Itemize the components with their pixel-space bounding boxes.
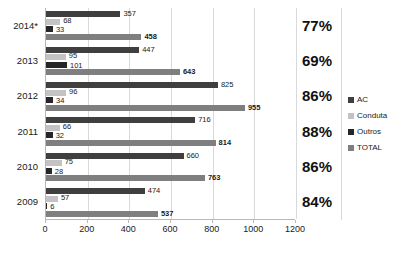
bar-row: 447 bbox=[46, 47, 295, 53]
bar-outros-2011 bbox=[46, 132, 53, 138]
horizontal-bar-chart: 2014*20132012201120102009 35768334584479… bbox=[0, 0, 402, 254]
legend-label: AC bbox=[357, 96, 368, 104]
bar-ac-2014-est bbox=[46, 11, 120, 17]
y-axis-label-2010: 2010 bbox=[0, 162, 38, 172]
bar-value-label: 34 bbox=[56, 97, 64, 105]
bar-value-label: 75 bbox=[65, 158, 73, 166]
x-tick-label-1000: 1000 bbox=[243, 225, 263, 234]
bar-outros-2014-est bbox=[46, 26, 53, 32]
bar-value-label: 825 bbox=[221, 81, 234, 89]
x-tick-600 bbox=[170, 220, 171, 223]
percentage-value-2011: 88% bbox=[296, 124, 338, 139]
bar-value-label: 763 bbox=[208, 174, 221, 182]
bar-value-label: 458 bbox=[144, 33, 157, 41]
legend-item-conduta[interactable]: Conduta bbox=[348, 108, 402, 124]
y-axis-label-2009: 2009 bbox=[0, 197, 38, 207]
x-axis: 020040060080010001200 bbox=[45, 220, 295, 240]
bar-value-label: 643 bbox=[183, 68, 196, 76]
legend-label: TOTAL bbox=[357, 144, 382, 152]
bar-outros-2012 bbox=[46, 97, 53, 103]
y-axis-category-labels: 2014*20132012201120102009 bbox=[0, 8, 42, 220]
bar-conduta-2013 bbox=[46, 54, 66, 60]
bar-total-2014-est bbox=[46, 34, 141, 40]
bar-total-2012 bbox=[46, 105, 245, 111]
bar-value-label: 33 bbox=[56, 26, 64, 34]
bar-group-2011: 7166632814 bbox=[46, 114, 295, 149]
percentage-value-2009: 84% bbox=[296, 194, 338, 209]
percentage-column: 77%69%86%88%86%84% bbox=[296, 8, 342, 220]
bar-row: 763 bbox=[46, 175, 295, 181]
bar-value-label: 101 bbox=[70, 62, 83, 70]
legend-swatch-icon bbox=[348, 145, 354, 151]
bar-row: 101 bbox=[46, 62, 295, 68]
legend-label: Outros bbox=[357, 128, 381, 136]
bar-value-label: 474 bbox=[148, 187, 161, 195]
percentage-value-2014-est: 77% bbox=[296, 18, 338, 33]
bar-row: 96 bbox=[46, 90, 295, 96]
bar-value-label: 716 bbox=[198, 117, 211, 125]
chart-legend: ACCondutaOutrosTOTAL bbox=[348, 92, 402, 156]
bar-value-label: 814 bbox=[219, 139, 232, 147]
percentage-value-2013: 69% bbox=[296, 53, 338, 68]
bar-row: 95 bbox=[46, 54, 295, 60]
bar-total-2010 bbox=[46, 175, 205, 181]
bar-value-label: 95 bbox=[69, 52, 77, 60]
bar-row: 357 bbox=[46, 11, 295, 17]
bar-row: 825 bbox=[46, 82, 295, 88]
bar-row: 643 bbox=[46, 69, 295, 75]
bar-group-2010: 6607528763 bbox=[46, 149, 295, 184]
bar-group-2009: 474576537 bbox=[46, 185, 295, 220]
legend-swatch-icon bbox=[348, 113, 354, 119]
legend-swatch-icon bbox=[348, 97, 354, 103]
percentage-value-2012: 86% bbox=[296, 88, 338, 103]
legend-item-total[interactable]: TOTAL bbox=[348, 140, 402, 156]
y-axis-label-2011: 2011 bbox=[0, 127, 38, 137]
bar-total-2009 bbox=[46, 211, 158, 217]
x-tick-200 bbox=[87, 220, 88, 223]
x-tick-1200 bbox=[295, 220, 296, 223]
bar-row: 660 bbox=[46, 153, 295, 159]
bar-value-label: 660 bbox=[187, 152, 200, 160]
bar-value-label: 57 bbox=[61, 194, 69, 202]
x-tick-400 bbox=[128, 220, 129, 223]
bar-group-2012: 8259634955 bbox=[46, 79, 295, 114]
bar-value-label: 96 bbox=[69, 88, 77, 96]
bar-value-label: 447 bbox=[142, 46, 155, 54]
bar-row: 474 bbox=[46, 188, 295, 194]
bar-value-label: 68 bbox=[63, 17, 71, 25]
legend-item-outros[interactable]: Outros bbox=[348, 124, 402, 140]
bar-value-label: 28 bbox=[55, 168, 63, 176]
percentage-value-2010: 86% bbox=[296, 159, 338, 174]
bar-row: 68 bbox=[46, 19, 295, 25]
bar-conduta-2011 bbox=[46, 125, 60, 131]
bar-total-2011 bbox=[46, 140, 216, 146]
bar-value-label: 955 bbox=[248, 104, 261, 112]
plot-area: 3576833458447951016438259634955716663281… bbox=[45, 8, 295, 220]
bar-row: 814 bbox=[46, 140, 295, 146]
bar-row: 28 bbox=[46, 168, 295, 174]
bar-row: 57 bbox=[46, 196, 295, 202]
bar-outros-2010 bbox=[46, 168, 52, 174]
bar-outros-2013 bbox=[46, 62, 67, 68]
bar-row: 75 bbox=[46, 160, 295, 166]
bar-value-label: 6 bbox=[50, 203, 54, 211]
bar-row: 955 bbox=[46, 105, 295, 111]
legend-label: Conduta bbox=[357, 112, 387, 120]
bar-conduta-2009 bbox=[46, 196, 58, 202]
legend-swatch-icon bbox=[348, 129, 354, 135]
bar-conduta-2012 bbox=[46, 90, 66, 96]
x-tick-label-0: 0 bbox=[42, 225, 47, 234]
bar-ac-2013 bbox=[46, 47, 139, 53]
bar-row: 32 bbox=[46, 132, 295, 138]
bar-value-label: 537 bbox=[161, 210, 174, 218]
bar-row: 458 bbox=[46, 34, 295, 40]
y-axis-label-2013: 2013 bbox=[0, 56, 38, 66]
legend-item-ac[interactable]: AC bbox=[348, 92, 402, 108]
bar-value-label: 357 bbox=[123, 11, 136, 19]
bar-value-label: 66 bbox=[63, 123, 71, 131]
bar-value-label: 32 bbox=[56, 132, 64, 140]
bar-row: 716 bbox=[46, 117, 295, 123]
x-tick-label-1200: 1200 bbox=[285, 225, 305, 234]
x-tick-0 bbox=[45, 220, 46, 223]
x-tick-800 bbox=[212, 220, 213, 223]
